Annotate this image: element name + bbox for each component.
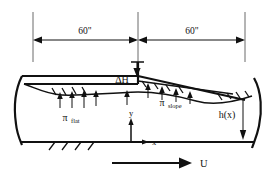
hatch-mark (88, 142, 94, 150)
pi-slope-subscript: slope (168, 102, 182, 109)
arrowhead-right-outer (236, 37, 245, 44)
pressure-arrow (93, 90, 99, 106)
hatch-mark (49, 142, 55, 150)
technical-diagram: 60" 60" ΔH (0, 0, 278, 178)
delta-h-label: ΔH (115, 74, 129, 85)
hatch-mark (62, 142, 68, 150)
h-of-x-label: h(x) (219, 109, 236, 121)
pressure-arrow (69, 91, 75, 108)
velocity-arrowhead (179, 158, 192, 169)
pressure-arrow (173, 88, 179, 102)
dimension-label-left: 60" (78, 26, 92, 36)
velocity-label: U (200, 158, 208, 169)
arrowhead-left-inner (129, 37, 138, 44)
x-axis-arrowhead (142, 139, 149, 144)
velocity-indicator: U (112, 158, 208, 170)
h-of-x-measure: h(x) (219, 98, 247, 140)
pi-flat-symbol: π (62, 112, 67, 123)
pi-slope-symbol: π (159, 97, 164, 108)
pressure-arrow (145, 83, 151, 98)
bottom-wall-hatching (49, 142, 94, 150)
y-axis-arrowhead (128, 118, 133, 125)
y-axis-label: y (129, 108, 134, 118)
dimension-left-span: 60" (33, 26, 138, 43)
dimension-right-span: 60" (138, 26, 245, 43)
dimension-extension-lines (33, 12, 245, 62)
left-break-boundary (15, 76, 22, 145)
right-break-boundary (252, 78, 261, 148)
h-of-x-arrowhead (240, 130, 246, 140)
arrowhead-right-inner (138, 37, 147, 44)
dimension-label-right: 60" (185, 26, 199, 36)
diagram-canvas: 60" 60" ΔH (0, 0, 278, 178)
pi-flat-pressure-arrows (52, 87, 130, 108)
flat-region-free-surface (24, 84, 138, 95)
pi-flat-subscript: flat (71, 117, 80, 124)
pressure-arrow (187, 91, 193, 104)
arrowhead-left-outer (33, 37, 42, 44)
hatch-mark (75, 142, 81, 150)
